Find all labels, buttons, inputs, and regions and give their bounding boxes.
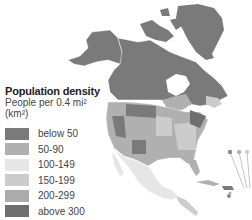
region-florida [188,160,200,176]
legend-swatch [5,205,29,217]
legend-item: 50-90 [5,142,100,158]
legend-label: below 50 [38,128,78,139]
legend-title: Population density [5,85,100,97]
legend-label: 200-299 [38,190,75,201]
region-alaska [68,30,128,66]
callout-dot-1 [228,150,232,154]
legend-item: 150-199 [5,173,100,189]
legend-item: 100-149 [5,157,100,173]
legend-subtitle-units: (km²) [5,108,100,119]
legend-label: 100-149 [38,159,75,170]
legend-items: below 50 50-90 100-149 150-199 200-299 a… [5,126,100,219]
legend-item: below 50 [5,126,100,142]
legend-subtitle: People per 0.4 mi² [5,97,100,108]
callout-dot-2 [237,150,241,154]
region-greenland [176,4,224,60]
legend-swatch [5,159,29,171]
region-cuba [196,180,220,186]
legend-swatch [5,190,29,202]
legend-label: 50-90 [38,144,64,155]
legend: Population density People per 0.4 mi² (k… [5,85,100,219]
region-central-america [176,196,198,216]
callout-dot-3 [245,150,249,154]
legend-item: 200-299 [5,188,100,204]
legend-label: 150-199 [38,175,75,186]
region-arctic-islands [140,20,174,42]
caribbean-callouts [227,150,250,198]
legend-swatch [5,128,29,140]
legend-item: above 300 [5,204,100,220]
legend-label: above 300 [38,206,85,217]
legend-swatch [5,174,29,186]
legend-swatch [5,143,29,155]
